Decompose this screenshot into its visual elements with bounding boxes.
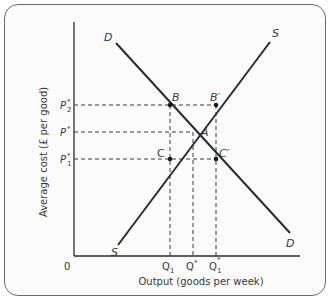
svg-text:Q: Q — [209, 261, 217, 272]
svg-text:2: 2 — [67, 106, 71, 114]
supply-end-label: S — [272, 27, 279, 40]
svg-text:*: * — [217, 256, 221, 264]
supply-demand-diagram: D D S S B B′ A C C′ P 2 * P * P 1 * Q 1 … — [0, 0, 332, 303]
svg-text:P: P — [60, 127, 67, 138]
svg-text:1: 1 — [170, 267, 174, 275]
price-label-p2: P 2 * — [60, 98, 71, 114]
point-c — [168, 157, 173, 162]
origin-label: 0 — [64, 261, 70, 272]
label-c-prime: C′ — [219, 147, 230, 160]
x-axis-title: Output (goods per week) — [138, 276, 263, 287]
quantity-label-q: Q * — [186, 259, 198, 272]
svg-text:*: * — [67, 125, 71, 133]
y-axis-title: Average cost (£ per good) — [38, 87, 49, 217]
quantity-label-q1: Q 1 — [162, 261, 174, 275]
label-a: A — [200, 126, 209, 139]
label-c: C — [157, 147, 165, 160]
label-b: B — [172, 91, 180, 104]
svg-text:1: 1 — [67, 160, 71, 168]
price-label-p1: P 1 * — [60, 152, 71, 168]
quantity-label-q1-star: Q 1 * — [209, 256, 221, 275]
svg-text:P: P — [60, 154, 67, 165]
svg-text:Q: Q — [162, 261, 170, 272]
svg-text:P: P — [60, 100, 67, 111]
supply-curve — [118, 42, 270, 245]
point-c-prime — [214, 157, 219, 162]
svg-text:Q: Q — [186, 261, 194, 272]
label-b-prime: B′ — [210, 91, 221, 104]
supply-start-label: S — [111, 246, 118, 259]
svg-text:*: * — [67, 152, 71, 160]
svg-text:*: * — [67, 98, 71, 106]
svg-text:1: 1 — [217, 267, 221, 275]
demand-end-label: D — [286, 237, 294, 250]
demand-start-label: D — [104, 31, 112, 44]
svg-text:*: * — [194, 259, 198, 267]
price-label-p: P * — [60, 125, 71, 138]
